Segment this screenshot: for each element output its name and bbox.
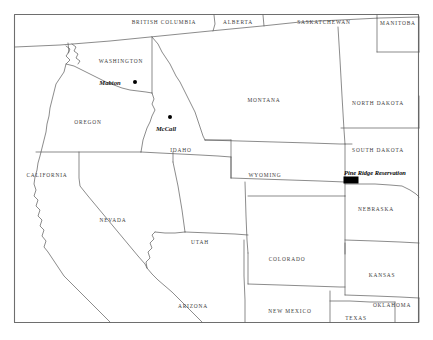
region-label-arizona: ARIZONA [178, 303, 208, 309]
border-nevada-utah [173, 162, 185, 232]
region-label-oklahoma: OKLAHOMA [373, 302, 411, 308]
region-label-new-mexico: NEW MEXICO [268, 308, 311, 314]
border-wyoming-south [231, 178, 345, 182]
coastline-olympic [66, 46, 70, 53]
region-label-manitoba: MANITOBA [380, 20, 416, 26]
border-alberta-saskatchewan [263, 15, 264, 26]
region-label-texas: TEXAS [345, 315, 367, 321]
region-label-alberta: ALBERTA [223, 19, 253, 25]
border-utah-colorado [245, 182, 248, 253]
border-nebraska-kansas [345, 240, 419, 243]
city-label-mabton: Mabton [99, 79, 120, 86]
site-marker-pine-ridge-reservation [344, 177, 359, 184]
region-label-utah: UTAH [191, 239, 209, 245]
coastline-puget-sound [72, 44, 80, 64]
region-label-saskatchewan: SASKATCHEWAN [297, 19, 351, 25]
border-arizona-newmexico [244, 240, 245, 322]
city-dot-mabton [133, 80, 137, 84]
region-label-nevada: NEVADA [99, 217, 126, 223]
city-dot-mccall [168, 115, 172, 119]
border-south-dakota-nebraska [345, 184, 419, 197]
region-label-california: CALIFORNIA [26, 172, 67, 178]
border-california-nevada [79, 152, 147, 268]
border-arizona-south [147, 268, 202, 322]
site-label-pine-ridge-reservation: Pine Ridge Reservation [344, 169, 406, 176]
region-label-south-dakota: SOUTH DAKOTA [352, 147, 404, 153]
map-figure: BRITISH COLUMBIA ALBERTA SASKATCHEWAN MA… [0, 0, 433, 340]
border-us-canada [15, 17, 419, 47]
region-label-wyoming: WYOMING [248, 172, 281, 178]
border-oregon-idaho [141, 93, 155, 152]
border-kansas-oklahoma [345, 295, 419, 298]
border-montana-dakotas [338, 27, 345, 144]
border-nevada-arizona [155, 232, 185, 233]
region-label-oregon: OREGON [74, 119, 102, 125]
region-label-british-columbia: BRITISH COLUMBIA [132, 19, 197, 25]
border-california-arizona [146, 232, 155, 268]
region-label-montana: MONTANA [247, 97, 280, 103]
region-label-colorado: COLORADO [269, 256, 306, 262]
region-label-washington: WASHINGTON [99, 58, 143, 64]
city-label-mccall: McCall [156, 125, 176, 132]
region-label-idaho: IDAHO [170, 147, 192, 153]
region-label-north-dakota: NORTH DAKOTA [352, 100, 404, 106]
region-label-kansas: KANSAS [369, 272, 396, 278]
region-label-nebraska: NEBRASKA [358, 206, 394, 212]
border-utah-south [185, 232, 248, 235]
border-montana-wyoming [205, 140, 352, 144]
border-bc-alberta [213, 15, 215, 31]
border-colorado-newmexico [248, 284, 345, 287]
